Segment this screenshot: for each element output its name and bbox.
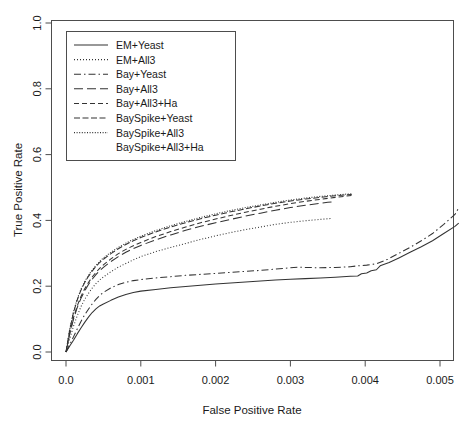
legend-label: Bay+Yeast: [116, 68, 166, 80]
y-tick-label: 0.2: [31, 279, 43, 294]
y-tick-label: 0.4: [31, 213, 43, 228]
legend-label: EM+All3: [116, 54, 156, 66]
chart-legend: EM+YeastEM+All3Bay+YeastBay+All3Bay+All3…: [67, 32, 236, 161]
legend-label: EM+Yeast: [116, 39, 164, 51]
x-axis-title: False Positive Rate: [202, 404, 301, 416]
x-tick-label: 0.001: [127, 374, 155, 386]
y-axis-title: True Positive Rate: [12, 143, 24, 237]
x-tick-label: 0.005: [426, 374, 454, 386]
roc-chart: 0.00.20.40.60.81.0 0.00.0010.0020.0030.0…: [0, 0, 465, 431]
x-tick-label: 0.003: [277, 374, 305, 386]
legend-label: Bay+All3: [116, 83, 158, 95]
legend-label: BaySpike+All3+Ha: [116, 141, 204, 153]
y-tick-label: 0.8: [31, 81, 43, 96]
x-tick-label: 0.002: [202, 374, 230, 386]
x-tick-label: 0.0: [58, 374, 73, 386]
y-tick-label: 0.6: [31, 147, 43, 162]
legend-label: BaySpike+Yeast: [116, 112, 192, 124]
legend-label: Bay+All3+Ha: [116, 97, 177, 109]
legend-label: BaySpike+All3: [116, 127, 184, 139]
y-tick-label: 0.0: [31, 344, 43, 359]
chart-canvas: 0.00.20.40.60.81.0 0.00.0010.0020.0030.0…: [0, 0, 465, 431]
y-tick-label: 1.0: [31, 15, 43, 30]
x-tick-label: 0.004: [351, 374, 379, 386]
